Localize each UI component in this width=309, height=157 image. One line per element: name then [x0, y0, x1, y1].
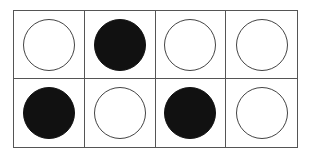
empty-circle-icon [236, 87, 288, 139]
grid-cell [85, 11, 156, 79]
grid-cell [14, 11, 85, 79]
grid-cell [156, 79, 227, 147]
empty-circle-icon [164, 19, 216, 71]
empty-circle-icon [94, 87, 146, 139]
grid-cell [14, 79, 85, 147]
empty-circle-icon [23, 19, 75, 71]
grid-cell [226, 11, 297, 79]
grid-cell [85, 79, 156, 147]
filled-circle-icon [23, 87, 75, 139]
grid-cell [226, 79, 297, 147]
counter-grid [13, 10, 298, 148]
filled-circle-icon [164, 87, 216, 139]
filled-circle-icon [94, 19, 146, 71]
grid-cell [156, 11, 227, 79]
empty-circle-icon [236, 19, 288, 71]
